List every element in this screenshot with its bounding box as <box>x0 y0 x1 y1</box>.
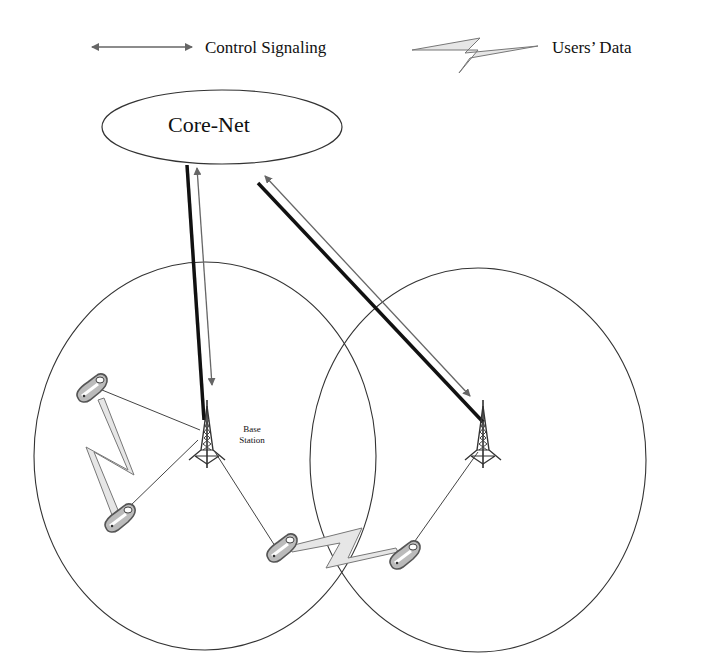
base-station-label-line2: Station <box>230 435 274 446</box>
base-station-label: Base Station <box>230 424 274 446</box>
core-to-right-bs-links <box>258 176 483 422</box>
radio-links <box>102 390 478 548</box>
mobile-phone-icon <box>267 534 297 562</box>
mobile-phone-icon <box>77 374 107 402</box>
legend-control-signaling-label: Control Signaling <box>205 38 326 58</box>
base-station-label-line1: Base <box>230 424 274 435</box>
users-data-bolt-left-icon <box>86 398 134 515</box>
core-to-left-bs-links <box>187 165 212 420</box>
network-diagram <box>0 0 710 653</box>
core-net-label: Core-Net <box>168 112 250 138</box>
left-base-station-tower-icon <box>189 400 225 468</box>
legend-users-data-label: Users’ Data <box>552 38 631 58</box>
legend-users-data-icon <box>412 38 538 73</box>
mobile-phone-icon <box>390 541 420 569</box>
users-data-bolt-cross-cell-icon <box>290 528 398 568</box>
